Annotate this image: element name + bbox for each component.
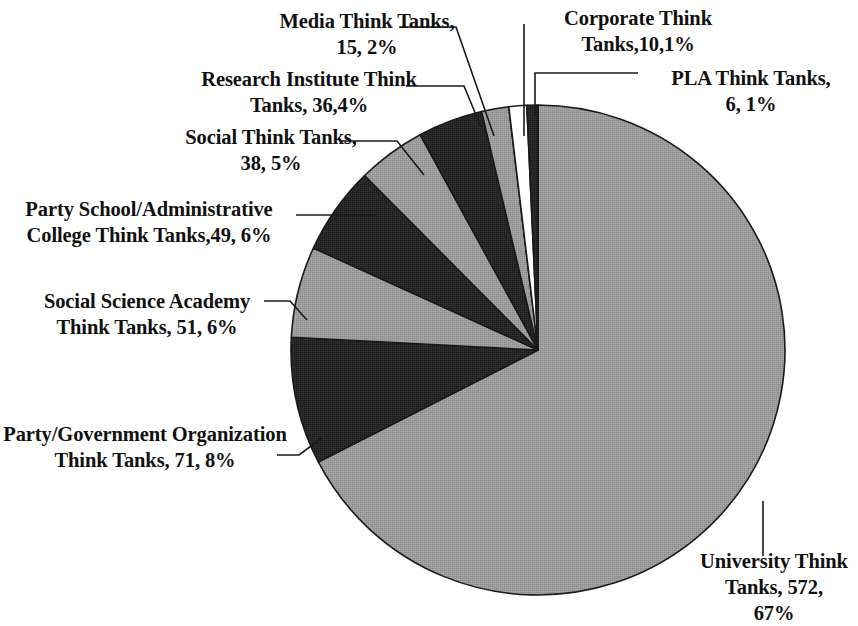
slice-label-media-think-tanks: Media Think Tanks, 15, 2% <box>233 8 501 60</box>
slice-label-party-government-think-tanks: Party/Government Organization Think Tank… <box>0 421 290 473</box>
pie-chart-figure: University Think Tanks, 572, 67%Party/Go… <box>0 0 858 626</box>
slice-label-party-school-think-tanks: Party School/Administrative College Thin… <box>4 196 294 248</box>
pie-slices-group: University Think Tanks, 572, 67%Party/Go… <box>291 105 785 595</box>
slice-label-social-think-tanks: Social Think Tanks, 38, 5% <box>140 124 402 176</box>
slice-label-university-think-tanks: University Think Tanks, 572, 67% <box>690 548 858 626</box>
slice-label-pla-think-tanks: PLA Think Tanks, 6, 1% <box>644 65 858 117</box>
slice-label-social-science-academy-think-tanks: Social Science Academy Think Tanks, 51, … <box>22 288 272 340</box>
slice-label-corporate-think-tanks: Corporate Think Tanks,10,1% <box>543 5 733 57</box>
slice-label-research-institute-think-tanks: Research Institute Think Tanks, 36,4% <box>168 66 450 118</box>
